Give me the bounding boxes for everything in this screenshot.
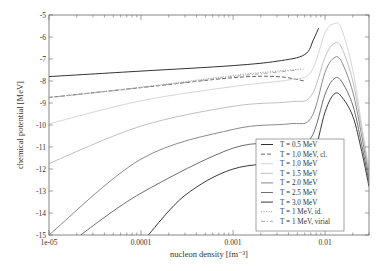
legend-label: T = 2.5 MeV (280, 189, 318, 197)
y-tick-label: -13 (36, 187, 46, 196)
legend-label: T = 1 MeV, id. (280, 208, 322, 216)
legend-label: T = 1 MeV, virial (280, 218, 330, 226)
legend-label: T = 2.0 MeV (280, 179, 318, 187)
x-tick-label: 0.0001 (131, 238, 152, 247)
series-line-0 (49, 28, 319, 76)
x-tick-label: 0.01 (319, 238, 332, 247)
y-tick-label: -10 (36, 121, 46, 130)
legend-label: T = 1.0 MeV (280, 160, 318, 168)
y-tick-label: -9 (40, 99, 46, 108)
chart: 1e-050.00010.0010.01 -5-6-7-8-9-10-11-12… (0, 0, 389, 271)
y-tick-label: -5 (40, 11, 46, 20)
legend-label: T = 0.5 MeV (280, 141, 318, 149)
y-tick-label: -11 (36, 143, 46, 152)
legend-label: T = 3.0 MeV (280, 199, 318, 207)
y-tick-label: -12 (36, 165, 46, 174)
y-tick-label: -15 (36, 231, 46, 240)
legend-label: T = 1.5 MeV (280, 170, 318, 178)
legend-label: T = 1.0 MeV, cl. (280, 151, 327, 159)
y-axis-label: chemical potential [MeV] (15, 81, 25, 169)
x-axis-label: nucleon density [fm⁻³] (170, 249, 248, 259)
y-tick-label: -8 (40, 77, 46, 86)
x-tick-label: 0.001 (225, 238, 242, 247)
y-tick-label: -7 (40, 55, 46, 64)
legend: T = 0.5 MeVT = 1.0 MeV, cl.T = 1.0 MeVT … (256, 139, 344, 231)
y-tick-label: -6 (40, 33, 46, 42)
y-tick-label: -14 (36, 209, 46, 218)
